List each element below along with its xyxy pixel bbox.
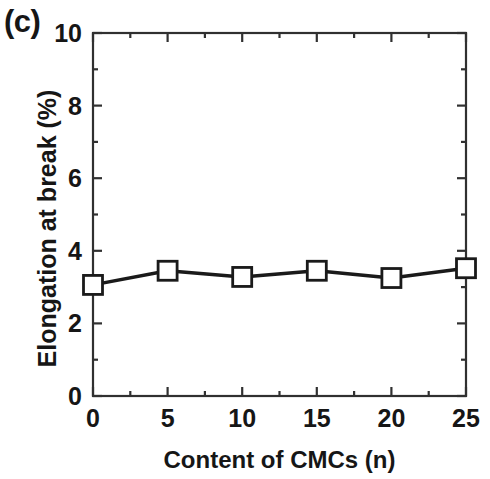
data-point-marker — [382, 269, 401, 288]
series-line — [93, 268, 466, 285]
x-tick-label: 10 — [228, 406, 256, 431]
x-tick-label: 5 — [161, 406, 175, 431]
y-tick-label: 10 — [20, 21, 82, 46]
data-point-marker — [307, 261, 326, 280]
data-point-marker — [158, 261, 177, 280]
x-tick-label: 25 — [452, 406, 480, 431]
data-point-marker — [233, 267, 252, 286]
y-tick-label: 0 — [20, 384, 82, 409]
x-tick-label: 0 — [86, 406, 100, 431]
x-tick-label: 20 — [377, 406, 405, 431]
y-tick-label: 2 — [20, 311, 82, 336]
plot-frame — [93, 33, 466, 396]
plot-area: 02468100510152025 — [0, 0, 490, 479]
y-tick-label: 6 — [20, 166, 82, 191]
y-tick-label: 8 — [20, 93, 82, 118]
x-tick-label: 15 — [303, 406, 331, 431]
data-point-marker — [84, 275, 103, 294]
y-tick-label: 4 — [20, 238, 82, 263]
data-point-marker — [457, 259, 476, 278]
figure-panel-c: (c) Elongation at break (%) Content of C… — [0, 0, 490, 479]
